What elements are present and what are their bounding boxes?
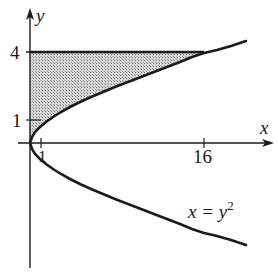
x-axis-label: x [259,117,269,138]
x-tick-label-16: 16 [193,146,212,167]
shaded-region [30,52,204,143]
y-tick-label-1: 1 [12,110,22,131]
x-tick-label-1: 1 [38,147,47,166]
y-axis-label: y [34,5,45,26]
diagram-canvas: y x 4 1 1 16 x = y2 [0,0,278,276]
curve-equation-label: x = y2 [187,198,234,222]
equation-main: x = y [187,201,228,222]
equation-exponent: 2 [227,198,234,213]
y-tick-label-4: 4 [10,42,20,63]
